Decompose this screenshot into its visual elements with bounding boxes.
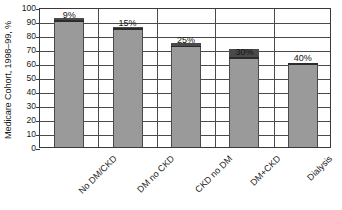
y-axis-tick-label: 90 (26, 18, 36, 27)
y-axis-tick-label: 30 (26, 102, 36, 111)
bar-top-cap (288, 63, 318, 65)
y-axis-tickmark (36, 23, 40, 24)
y-axis-tickmark (36, 9, 40, 10)
y-axis-tick-label: 0 (31, 144, 36, 153)
y-axis-tick-label: 20 (26, 116, 36, 125)
y-axis-tickmark (36, 121, 40, 122)
gridline-vertical (274, 9, 275, 147)
bar-no-dm-ckd[interactable] (54, 20, 84, 147)
x-axis-label-dialysis: Dialysis (306, 154, 334, 182)
y-axis-tickmark (36, 93, 40, 94)
bar-data-label: 40% (294, 54, 312, 63)
bar-ckd-no-dm[interactable] (171, 45, 201, 147)
y-axis-tick-label: 60 (26, 60, 36, 69)
y-axis-tick-label: 10 (26, 130, 36, 139)
bar-dm-no-ckd[interactable] (113, 28, 143, 147)
x-axis-label-no-dm-ckd: No DM/CKD (78, 154, 119, 195)
bar-data-label: 25% (177, 36, 195, 45)
x-axis-label-dm-ckd: DM+CKD (249, 154, 282, 187)
bar-dm-ckd[interactable] (229, 57, 259, 147)
gridline-vertical (215, 9, 216, 147)
y-axis-tick-label: 80 (26, 32, 36, 41)
y-axis-title-text: Medicare Cohort, 1998–99, % (3, 21, 13, 139)
y-axis-tickmark (36, 79, 40, 80)
y-axis-tickmark (36, 149, 40, 150)
gridline-vertical (98, 9, 99, 147)
bar-top-cap (229, 57, 259, 59)
bar-data-label: 15% (119, 19, 137, 28)
y-axis-tickmark (36, 51, 40, 52)
bar-chart: Medicare Cohort, 1998–99, % 010203040506… (0, 0, 342, 210)
y-axis-tick-label: 100 (22, 4, 36, 13)
gridline-vertical (157, 9, 158, 147)
x-axis-label-dm-no-ckd: DM no CKD (135, 154, 175, 194)
y-axis-tick-label: 40 (26, 88, 36, 97)
plot-inner: 9%15%25%30%40% (40, 9, 330, 147)
y-axis-tickmark (36, 37, 40, 38)
bar-data-label: 30% (235, 48, 253, 57)
bar-dialysis[interactable] (288, 63, 318, 147)
y-axis-tickmark (36, 107, 40, 108)
y-axis-tickmark (36, 65, 40, 66)
y-axis-tick-label: 50 (26, 74, 36, 83)
x-axis-label-ckd-no-dm: CKD no DM (194, 154, 234, 194)
bar-top-cap (113, 28, 143, 30)
y-axis-title: Medicare Cohort, 1998–99, % (0, 0, 16, 160)
bar-data-label: 9% (63, 11, 76, 20)
y-axis-tick-label: 70 (26, 46, 36, 55)
bar-top-cap (54, 20, 84, 22)
plot-area: 9%15%25%30%40% (39, 8, 331, 148)
y-axis-tick-labels: 0102030405060708090100 (16, 8, 38, 148)
y-axis-tickmark (36, 135, 40, 136)
